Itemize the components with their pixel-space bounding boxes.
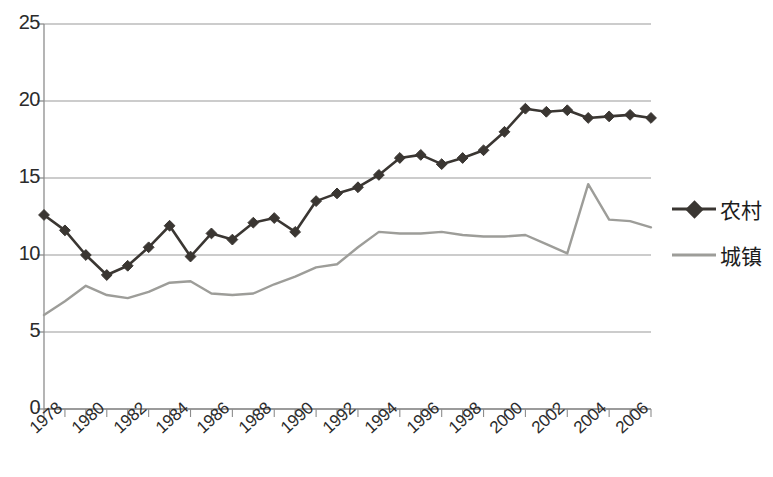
series-line-urban [44,184,651,315]
diamond-marker-icon [685,200,703,218]
y-tick-label: 5 [0,319,40,342]
gridlines-group [44,24,651,409]
series-group [39,103,657,315]
y-tick-label: 15 [0,165,40,188]
legend-line-urban [672,254,716,257]
data-point-marker [625,109,636,120]
data-point-marker [332,188,343,199]
data-point-marker [415,150,426,161]
data-point-marker [457,153,468,164]
legend-entry-rural: 农村 [672,194,762,224]
legend-swatch-urban [672,245,716,265]
y-tick-label: 20 [0,88,40,111]
chart-container: 2520151050 19781980198219841986198819901… [0,0,773,477]
data-point-marker [646,113,657,124]
y-tick-label: 10 [0,242,40,265]
y-tick-label: 25 [0,11,40,34]
legend-label-urban: 城镇 [716,240,762,270]
legend-label-rural: 农村 [716,194,762,224]
data-point-marker [541,106,552,117]
data-point-marker [562,105,573,116]
legend-entry-urban: 城镇 [672,240,762,270]
data-point-marker [353,182,364,193]
data-point-marker [436,159,447,170]
data-point-marker [583,113,594,124]
legend-swatch-rural [672,199,716,219]
axes-group [37,24,651,409]
data-point-marker [604,111,615,122]
